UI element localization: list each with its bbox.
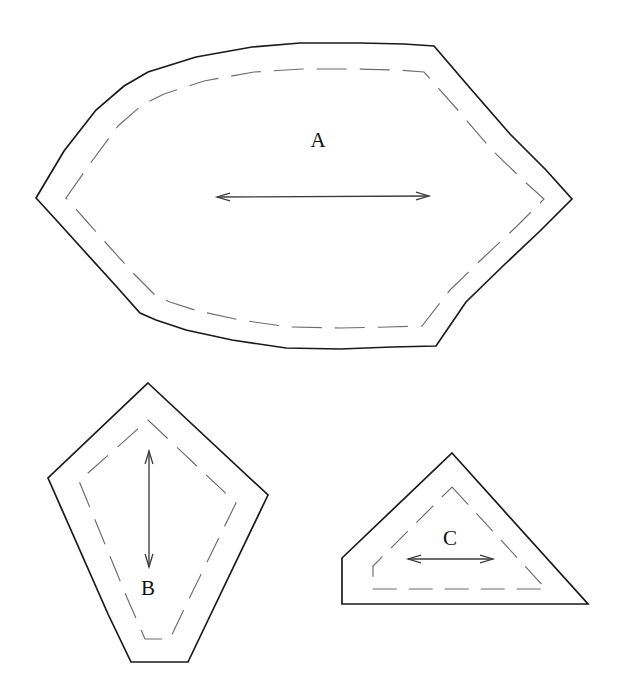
shape-b-dimension-arrow: [145, 451, 153, 567]
shape-group-c: C: [342, 453, 588, 604]
shape-c-outer-outline: [342, 453, 588, 604]
diagram-canvas: A B C: [0, 0, 621, 690]
shape-a-label: A: [310, 128, 326, 152]
shape-b-outer-outline: [48, 383, 268, 662]
shape-a-arrow-shaft: [217, 196, 429, 197]
shape-b-label: B: [141, 576, 155, 600]
shape-diagram-svg: A B C: [0, 0, 621, 690]
shape-c-inner-dashed-outline: [373, 487, 546, 589]
shape-c-label: C: [443, 526, 457, 550]
shape-group-a: A: [36, 43, 572, 349]
shape-a-dimension-arrow: [217, 192, 429, 201]
shape-a-inner-dashed-outline: [66, 69, 544, 328]
shape-b-inner-dashed-outline: [79, 420, 236, 639]
shape-c-dimension-arrow: [408, 555, 493, 563]
shape-group-b: B: [48, 383, 268, 662]
